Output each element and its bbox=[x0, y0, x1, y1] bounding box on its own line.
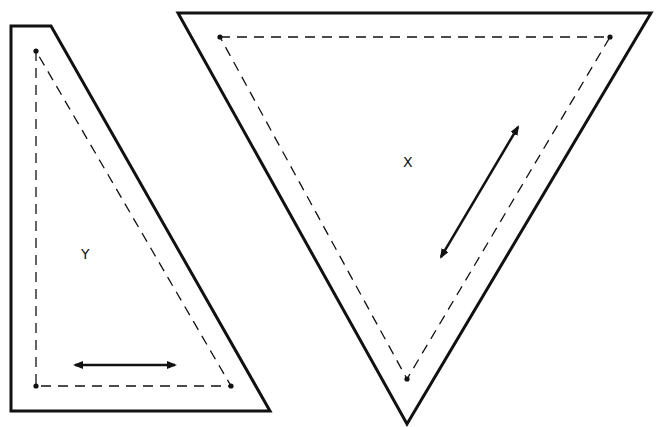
seam-dot bbox=[217, 34, 222, 39]
piece-x-seam-line bbox=[220, 37, 610, 379]
piece-x bbox=[178, 13, 651, 424]
grain-arrow bbox=[441, 127, 518, 257]
seam-dot bbox=[33, 383, 38, 388]
piece-y-seam-line bbox=[36, 51, 231, 386]
piece-x-cut-line bbox=[178, 13, 651, 424]
seam-dot bbox=[607, 34, 612, 39]
piece-y-cut-line bbox=[11, 26, 270, 411]
piece-y bbox=[11, 26, 270, 411]
pattern-pieces-diagram bbox=[0, 0, 657, 427]
piece-y-label: Y bbox=[81, 247, 90, 261]
seam-dot bbox=[228, 383, 233, 388]
seam-dot bbox=[33, 48, 38, 53]
piece-x-label: X bbox=[403, 155, 413, 169]
seam-dot bbox=[404, 376, 409, 381]
